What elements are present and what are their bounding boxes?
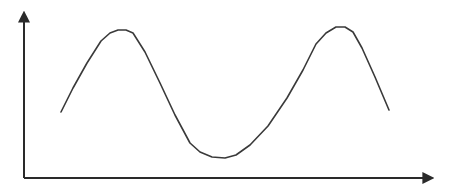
chart: [0, 0, 454, 189]
chart-canvas: [0, 0, 454, 189]
data-line: [61, 27, 389, 158]
